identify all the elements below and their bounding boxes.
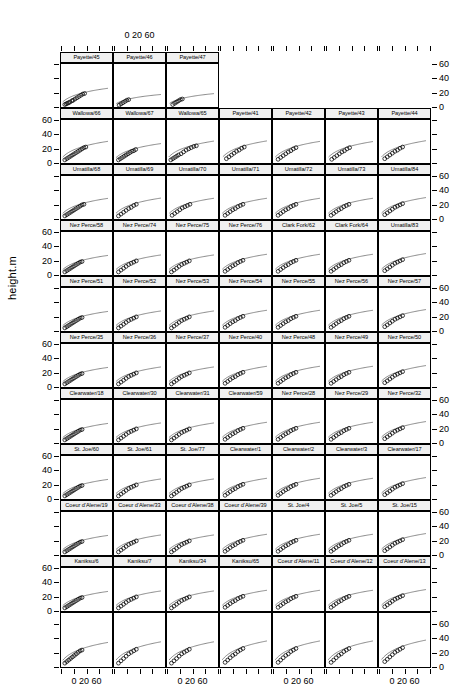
y-tick-right (432, 611, 437, 612)
y-tick-label-left: 60 (34, 451, 52, 461)
y-tick-right (432, 499, 437, 500)
y-tick-left (54, 302, 59, 303)
y-tick-label-left: 20 (34, 592, 52, 602)
y-tick-label-left: 0 (34, 494, 52, 504)
scatter-panel (60, 63, 113, 108)
y-tick-right (432, 358, 437, 359)
panel-strip-label: Payette/46 (113, 52, 166, 63)
scatter-panel (272, 612, 325, 668)
x-tick-bottom (405, 669, 406, 674)
y-tick-label-left: 40 (34, 129, 52, 139)
scatter-panel (166, 612, 219, 668)
scatter-panel (219, 343, 272, 388)
x-tick-top (140, 46, 141, 51)
panel-strip-label: Coeur d'Alene/19 (60, 500, 113, 511)
panel-strip-label: Wallowa/67 (113, 108, 166, 119)
y-tick-label-right: 40 (439, 185, 454, 195)
scatter-panel (325, 119, 378, 164)
x-tick-top (286, 46, 287, 51)
y-tick-left (54, 597, 59, 598)
scatter-panel (378, 343, 431, 388)
x-tick-top (233, 46, 234, 51)
panel-strip-label: Clearwater/18 (60, 388, 113, 399)
panel-strip-label: Nez Perce/49 (325, 332, 378, 343)
x-tick-top (127, 46, 128, 51)
y-tick-right (432, 526, 437, 527)
panel-strip-label: Clearwater/30 (113, 388, 166, 399)
y-tick-right (432, 78, 437, 79)
x-tick-bottom (233, 669, 234, 674)
y-tick-label-left: 0 (34, 270, 52, 280)
scatter-panel (113, 455, 166, 500)
panel-strip-label: Nez Perce/32 (378, 388, 431, 399)
y-tick-right (432, 638, 437, 639)
y-tick-right (432, 232, 437, 233)
x-tick-top (273, 46, 274, 51)
scatter-panel (272, 343, 325, 388)
panel-strip-label: Nez Perce/55 (272, 276, 325, 287)
x-tick-top (326, 46, 327, 51)
panel-strip-label: Payette/45 (60, 52, 113, 63)
panel-strip-label: Nez Perce/74 (113, 220, 166, 231)
y-tick-left (54, 358, 59, 359)
x-tick-top (271, 46, 272, 51)
y-tick-right (432, 344, 437, 345)
y-tick-left (54, 190, 59, 191)
y-tick-label-right: 20 (439, 88, 454, 98)
panel-strip-label: Clearwater/3 (325, 444, 378, 455)
y-tick-left (54, 387, 59, 388)
scatter-panel (219, 567, 272, 612)
scatter-panel (219, 175, 272, 220)
y-tick-right (432, 653, 437, 654)
panel-strip-label: Coeur d'Alene/33 (113, 500, 166, 511)
y-tick-left (54, 134, 59, 135)
y-tick-left (54, 275, 59, 276)
y-tick-label-right: 0 (439, 438, 454, 448)
panel-strip-label: Nez Perce/52 (113, 276, 166, 287)
panel-strip-label: Nez Perce/37 (166, 332, 219, 343)
x-tick-bottom (114, 669, 115, 674)
y-tick-left (54, 64, 59, 65)
y-tick-right (432, 205, 437, 206)
y-tick-label-left: 60 (34, 227, 52, 237)
panel-strip-label: St. Joe/4 (272, 500, 325, 511)
scatter-panel (60, 511, 113, 556)
scatter-panel (60, 119, 113, 164)
scatter-panel (219, 399, 272, 444)
y-tick-label-left: 40 (34, 353, 52, 363)
scatter-panel (113, 612, 166, 668)
panel-strip-label: St. Joe/15 (378, 500, 431, 511)
x-tick-top (152, 46, 153, 51)
x-tick-top (379, 46, 380, 51)
y-tick-label-right: 60 (439, 59, 454, 69)
panel-strip-label: Umatilla/73 (325, 164, 378, 175)
y-tick-left (54, 149, 59, 150)
scatter-panel (272, 511, 325, 556)
y-tick-label-right: 20 (439, 536, 454, 546)
panel-strip-label: Nez Perce/28 (272, 388, 325, 399)
panel-strip-label: Nez Perce/51 (60, 276, 113, 287)
scatter-panel (60, 287, 113, 332)
x-tick-label-bottom: 0 20 60 (60, 676, 113, 686)
x-tick-bottom (326, 669, 327, 674)
x-tick-top (167, 46, 168, 51)
y-tick-left (54, 443, 59, 444)
y-tick-left (54, 317, 59, 318)
scatter-panel (378, 567, 431, 612)
scatter-panel (60, 343, 113, 388)
scatter-panel (113, 119, 166, 164)
x-tick-bottom (167, 669, 168, 674)
panel-strip-label: Nez Perce/40 (219, 332, 272, 343)
scatter-panel (219, 511, 272, 556)
x-tick-bottom (339, 669, 340, 674)
y-tick-right (432, 331, 437, 332)
scatter-panel (325, 399, 378, 444)
panel-strip-label: Kaniksu/6 (60, 556, 113, 567)
scatter-panel (60, 455, 113, 500)
scatter-panel (325, 231, 378, 276)
y-tick-right (432, 443, 437, 444)
x-tick-bottom (377, 669, 378, 674)
x-tick-top (258, 46, 259, 51)
panel-strip-label: Coeur d'Alene/38 (166, 500, 219, 511)
y-tick-left (54, 373, 59, 374)
